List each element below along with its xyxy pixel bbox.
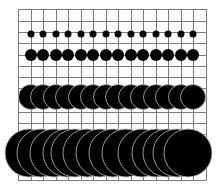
row-small-dots xyxy=(25,49,199,61)
filled-circle xyxy=(162,49,174,61)
filled-circle xyxy=(181,85,206,110)
row-tiny-dots xyxy=(28,31,197,38)
filled-circle xyxy=(25,49,37,61)
filled-circle xyxy=(65,31,72,38)
filled-circle xyxy=(112,49,124,61)
filled-circle xyxy=(165,31,172,38)
filled-circle xyxy=(50,49,62,61)
circle-rows xyxy=(5,31,212,178)
filled-circle xyxy=(187,49,199,61)
filled-circle xyxy=(103,31,110,38)
filled-circle xyxy=(28,31,35,38)
filled-circle xyxy=(190,31,197,38)
filled-circle xyxy=(175,49,187,61)
row-large-circles xyxy=(5,129,212,177)
filled-circle xyxy=(78,31,85,38)
filled-circle xyxy=(37,49,49,61)
row-medium-circles xyxy=(19,85,206,110)
filled-circle xyxy=(178,31,185,38)
filled-circle xyxy=(150,49,162,61)
grid-canvas xyxy=(0,0,222,188)
filled-circle xyxy=(125,49,137,61)
filled-circle xyxy=(137,49,149,61)
filled-circle xyxy=(140,31,147,38)
filled-circle xyxy=(115,31,122,38)
filled-circle xyxy=(53,31,60,38)
filled-circle xyxy=(128,31,135,38)
filled-circle xyxy=(62,49,74,61)
filled-circle xyxy=(153,31,160,38)
filled-circle xyxy=(75,49,87,61)
filled-circle xyxy=(90,31,97,38)
filled-circle xyxy=(164,129,212,177)
filled-circle xyxy=(40,31,47,38)
filled-circle xyxy=(100,49,112,61)
filled-circle xyxy=(87,49,99,61)
circle-grid-figure xyxy=(0,0,222,188)
